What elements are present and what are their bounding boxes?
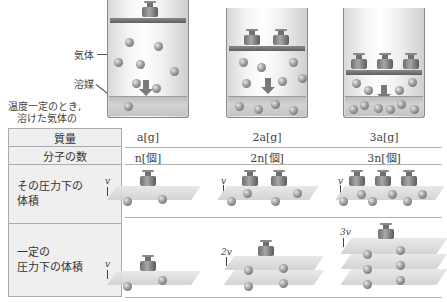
molecule-ball <box>242 79 251 88</box>
molecule-ball <box>408 78 417 87</box>
molecule-ball <box>132 79 141 88</box>
row-label-molecules-text: 分子の数 <box>43 148 87 164</box>
molecule-ball <box>279 279 288 288</box>
volume-label: 3v <box>340 227 351 237</box>
molecule-ball <box>235 102 244 111</box>
molecule-ball <box>293 189 302 198</box>
weight-icon <box>140 176 156 186</box>
caption-line-2: 溶けた気体の <box>17 110 77 125</box>
molecule-ball <box>357 190 366 199</box>
piston <box>346 70 422 75</box>
molecule-ball <box>123 197 132 206</box>
row-label-vol-at-pressure-line2: 体積 <box>17 194 121 209</box>
weight-icon <box>351 59 367 69</box>
molecule-ball <box>395 86 404 95</box>
molecule-ball <box>397 100 406 109</box>
row-label-mass-text: 質量 <box>54 130 76 146</box>
molecules-value-1: n[個] <box>98 149 198 165</box>
weight-icon <box>273 35 289 45</box>
weight-icon <box>377 59 393 69</box>
weight-icon <box>271 176 287 186</box>
row-divider <box>125 147 442 148</box>
molecule-ball <box>279 264 288 273</box>
molecule-ball <box>388 190 397 199</box>
molecule-ball <box>360 101 369 110</box>
molecule-ball <box>349 105 358 114</box>
molecule-ball <box>298 74 307 83</box>
solvent-label: 溶媒 <box>74 76 94 91</box>
molecule-ball <box>244 266 253 275</box>
weight-icon <box>258 246 274 256</box>
row-divider <box>125 297 442 298</box>
weight-icon <box>244 35 260 45</box>
piston <box>229 46 305 51</box>
molecule-ball <box>410 105 419 114</box>
down-arrow-icon <box>381 85 387 94</box>
molecule-ball <box>152 84 161 93</box>
weight-icon <box>403 59 419 69</box>
molecule-ball <box>396 246 405 255</box>
molecule-ball <box>403 197 412 206</box>
molecule-ball <box>386 105 395 114</box>
molecule-ball <box>363 265 372 274</box>
molecule-ball <box>271 100 280 109</box>
molecule-ball <box>339 197 348 206</box>
molecule-ball <box>396 276 405 285</box>
row-label-vol-const-line1: 一定の <box>17 245 121 260</box>
cylinder-1 <box>107 0 189 118</box>
molecule-ball <box>239 58 248 67</box>
gas-slab <box>107 271 201 285</box>
molecule-ball <box>254 105 263 114</box>
mass-value-3: 3a[g] <box>334 131 434 144</box>
molecule-ball <box>244 282 253 291</box>
molecule-ball <box>227 197 236 206</box>
volume-tick <box>343 238 344 247</box>
weight-icon <box>140 261 156 271</box>
weight-icon <box>242 176 258 186</box>
solvent-layer <box>109 96 187 116</box>
weight-icon <box>401 176 417 186</box>
molecule-ball <box>374 104 383 113</box>
molecule-ball <box>418 190 427 199</box>
molecule-ball <box>123 282 132 291</box>
molecule-ball <box>289 106 298 115</box>
molecule-ball <box>158 276 167 285</box>
down-arrow-icon <box>265 78 271 87</box>
molecule-ball <box>257 63 266 72</box>
weight-icon <box>378 229 394 239</box>
weight-icon <box>349 176 365 186</box>
molecule-ball <box>136 60 145 69</box>
weight-icon <box>375 176 391 186</box>
gas-slab <box>224 270 325 285</box>
molecule-ball <box>363 280 372 289</box>
molecules-value-3: 3n[個] <box>334 149 434 165</box>
cylinder-2 <box>226 8 308 118</box>
cylinder-3 <box>343 8 425 118</box>
weight-icon <box>142 7 158 17</box>
molecules-value-2: 2n[個] <box>217 149 317 165</box>
molecule-ball <box>271 197 280 206</box>
gas-label: 気体 <box>74 47 94 62</box>
volume-label: v <box>105 176 110 186</box>
gas-slab <box>341 254 447 269</box>
down-arrow-icon <box>143 80 149 89</box>
volume-tick <box>107 270 108 279</box>
row-label-vol-at-pressure: その圧力下の 体積 <box>8 164 122 224</box>
molecule-ball <box>243 189 252 198</box>
molecule-ball <box>289 58 298 67</box>
molecule-ball <box>396 261 405 270</box>
molecule-ball <box>114 58 123 67</box>
molecule-ball <box>364 86 373 95</box>
molecule-ball <box>154 42 163 51</box>
piston <box>110 18 186 23</box>
volume-label: 2v <box>221 247 232 257</box>
molecule-ball <box>278 77 287 86</box>
gas-slab <box>224 256 324 270</box>
molecule-ball <box>352 79 361 88</box>
row-divider <box>125 217 442 218</box>
molecule-ball <box>125 38 134 47</box>
molecule-ball <box>368 197 377 206</box>
volume-tick <box>107 187 108 196</box>
mass-value-1: a[g] <box>98 131 198 144</box>
volume-label: v <box>105 259 110 269</box>
